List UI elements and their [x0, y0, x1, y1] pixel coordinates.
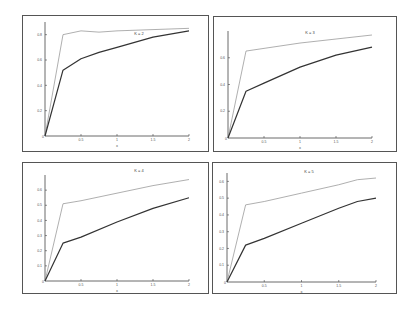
x-tick-label: 0.5	[262, 284, 267, 288]
y-tick-label: 0.5	[219, 196, 224, 200]
line-chart-k4: 00.511.52x0.10.20.30.40.50.6	[23, 163, 210, 295]
series-lower-line	[227, 198, 376, 282]
series-upper-line	[45, 28, 189, 136]
chart-panel-k3: 00.511.52x0.20.40.6 K = 3	[213, 16, 397, 152]
x-axis-label: x	[301, 289, 303, 294]
x-tick-label: 2	[188, 138, 190, 142]
x-tick-label: 1.5	[334, 140, 339, 144]
line-chart-k5: 00.511.52x0.10.20.30.40.50.6	[213, 163, 398, 295]
line-chart-k3: 00.511.52x0.20.40.6	[214, 17, 398, 153]
chart-title: K = 5	[304, 169, 313, 174]
x-axis-label: x	[299, 145, 301, 150]
y-tick-label: 0.4	[37, 219, 42, 223]
chart-panel-k2: 00.511.52x0.20.40.60.8 K = 2	[22, 15, 209, 152]
y-tick-label: 0.2	[220, 109, 225, 113]
x-axis-label: x	[116, 143, 118, 148]
x-tick-label: 2	[188, 283, 190, 287]
series-lower-line	[45, 198, 189, 281]
x-tick-label: 1.5	[151, 283, 156, 287]
series-upper-line	[228, 35, 372, 138]
y-tick-label: 0.1	[219, 263, 224, 267]
x-tick-label: 0.5	[262, 140, 267, 144]
x-tick-label: 0.5	[79, 138, 84, 142]
x-tick-label: 1.5	[336, 284, 341, 288]
y-tick-label: 0.1	[37, 264, 42, 268]
x-tick-label: 1	[116, 283, 118, 287]
x-tick-label: 1.5	[151, 138, 156, 142]
svg-text:0: 0	[225, 137, 227, 141]
series-upper-line	[227, 178, 376, 282]
y-tick-label: 0.2	[219, 247, 224, 251]
x-tick-label: 0.5	[79, 283, 84, 287]
svg-text:0: 0	[224, 281, 226, 285]
series-lower-line	[45, 31, 189, 136]
series-upper-line	[45, 180, 189, 281]
y-tick-label: 0.4	[219, 213, 224, 217]
chart-panel-k5: 00.511.52x0.10.20.30.40.50.6 K = 5	[212, 162, 397, 294]
y-tick-label: 0.6	[37, 188, 42, 192]
x-axis-label: x	[116, 288, 118, 293]
series-lower-line	[228, 47, 372, 138]
y-tick-label: 0.2	[37, 249, 42, 253]
x-tick-label: 1	[116, 138, 118, 142]
y-tick-label: 0.3	[219, 230, 224, 234]
svg-text:0: 0	[42, 280, 44, 284]
x-tick-label: 2	[371, 140, 373, 144]
y-tick-label: 0.2	[37, 109, 42, 113]
chart-panel-k4: 00.511.52x0.10.20.30.40.50.6 K = 4	[22, 162, 209, 294]
y-tick-label: 0.8	[37, 33, 42, 37]
x-tick-label: 2	[375, 284, 377, 288]
y-tick-label: 0.6	[219, 180, 224, 184]
chart-title: K = 3	[305, 30, 314, 35]
svg-text:0: 0	[42, 135, 44, 139]
chart-title: K = 2	[134, 31, 143, 36]
y-tick-label: 0.6	[220, 56, 225, 60]
y-tick-label: 0.4	[37, 84, 42, 88]
x-tick-label: 1	[301, 284, 303, 288]
y-tick-label: 0.3	[37, 234, 42, 238]
x-tick-label: 1	[299, 140, 301, 144]
line-chart-k2: 00.511.52x0.20.40.60.8	[23, 16, 210, 153]
y-tick-label: 0.4	[220, 83, 225, 87]
y-tick-label: 0.5	[37, 203, 42, 207]
y-tick-label: 0.6	[37, 58, 42, 62]
chart-title: K = 4	[134, 168, 143, 173]
